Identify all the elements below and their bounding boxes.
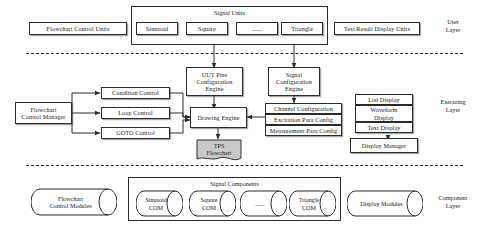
waveform-display-box[interactable]: Waveform Display [355, 105, 413, 122]
sinusoid-com-label: Sinusoid COM [145, 196, 174, 211]
square-com-label: Square COM [200, 196, 224, 211]
channel-configuration-box[interactable]: Channel Configuration [265, 103, 342, 114]
display-manager-box[interactable]: Display Manager [350, 138, 418, 153]
flowchart-control-units-box[interactable]: Flowchart Control Units [29, 22, 127, 35]
layer-label-executing: Executing Layer [430, 98, 476, 114]
loop-control-box[interactable]: Loop Control [101, 107, 170, 119]
ellipsis-com-label: ...... [255, 200, 271, 207]
display-modules-label: Display Modules [360, 200, 409, 207]
measurement-para-config-box[interactable]: Measurement Para Config [265, 125, 342, 136]
uut-pins-configuration-engine-box[interactable]: UUT Pins Configuration Engine [186, 67, 243, 96]
layer-label-component: Component Layer [430, 194, 476, 210]
signal-units-group-title: Signal Units [132, 9, 327, 16]
architecture-diagram: User Layer Executing Layer Component Lay… [0, 0, 479, 241]
signal-component-ellipsis[interactable]: ...... [240, 190, 287, 217]
flowchart-control-modules-label: Flowchart Control Modules [49, 195, 98, 210]
layer-label-user: User Layer [430, 18, 476, 34]
divider-executing-component [26, 165, 463, 166]
signal-components-group-title: Signal Components [129, 180, 340, 187]
excitation-para-config-box[interactable]: Excitation Para Config [265, 114, 342, 125]
signal-unit-sinusoid[interactable]: Sinusoid [136, 22, 178, 35]
signal-component-triangle-com[interactable]: Triangle COM [289, 190, 336, 217]
tps-flowchart-shape[interactable]: TPS Flowchart [196, 139, 242, 163]
signal-unit-triangle[interactable]: Triangle [281, 22, 323, 35]
flowchart-control-manager-box[interactable]: Flowchart Control Manager [15, 102, 72, 124]
divider-user-executing [26, 53, 463, 54]
text-display-box[interactable]: Text Display [355, 122, 413, 133]
signal-component-square-com[interactable]: Square COM [189, 190, 236, 217]
list-display-box[interactable]: List Display [355, 94, 413, 105]
goto-control-box[interactable]: GOTO Control [101, 127, 170, 139]
display-modules-cylinder[interactable]: Display Modules [347, 190, 423, 217]
signal-configuration-engine-box[interactable]: Signal Configuration Engine [268, 67, 320, 96]
signal-unit-square[interactable]: Square [186, 22, 228, 35]
triangle-com-label: Triangle COM [299, 196, 327, 211]
tps-flowchart-label: TPS Flowchart [196, 142, 242, 157]
drawing-engine-box[interactable]: Drawing Engine [190, 107, 247, 128]
condition-control-box[interactable]: Condition Control [101, 87, 170, 99]
signal-component-sinusoid-com[interactable]: Sinusoid COM [136, 190, 183, 217]
test-result-display-units-box[interactable]: Test Result Display Units [334, 22, 420, 35]
signal-unit-ellipsis[interactable]: ...... [236, 22, 278, 35]
flowchart-control-modules-cylinder[interactable]: Flowchart Control Modules [31, 188, 117, 216]
